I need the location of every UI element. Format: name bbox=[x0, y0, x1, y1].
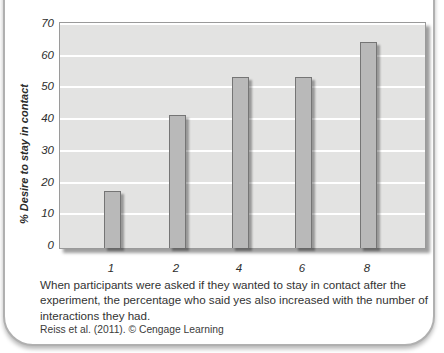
y-tick-label-30: 30 bbox=[8, 144, 54, 156]
x-tick-label-8: 8 bbox=[355, 262, 379, 274]
y-tick-label-0: 0 bbox=[8, 239, 54, 251]
figure-caption: When participants were asked if they wan… bbox=[40, 277, 430, 323]
y-tick-label-50: 50 bbox=[8, 80, 54, 92]
y-tick-label-10: 10 bbox=[8, 207, 54, 219]
plot-area bbox=[59, 22, 426, 249]
y-tick-label-60: 60 bbox=[8, 49, 54, 61]
bar-1 bbox=[104, 191, 121, 248]
figure-source: Reiss et al. (2011). © Cengage Learning bbox=[40, 324, 224, 335]
bar-4 bbox=[232, 77, 249, 248]
y-tick-label-20: 20 bbox=[8, 176, 54, 188]
gridline-70 bbox=[60, 23, 425, 25]
x-tick-label-1: 1 bbox=[99, 262, 123, 274]
y-tick-label-70: 70 bbox=[8, 17, 54, 29]
x-tick-label-2: 2 bbox=[164, 262, 188, 274]
x-tick-label-6: 6 bbox=[290, 262, 314, 274]
x-tick-label-4: 4 bbox=[227, 262, 251, 274]
bar-8 bbox=[360, 42, 377, 248]
bar-2 bbox=[169, 115, 186, 248]
bar-6 bbox=[295, 77, 312, 248]
bar-chart: % Desire to stay in contact 010203040506… bbox=[0, 0, 444, 276]
figure-page: % Desire to stay in contact 010203040506… bbox=[0, 0, 444, 353]
y-tick-label-40: 40 bbox=[8, 112, 54, 124]
